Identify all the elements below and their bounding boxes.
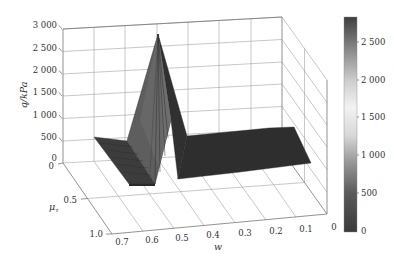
mu-tick: 0.5 bbox=[63, 195, 77, 205]
z-axis-label: q/kPa bbox=[18, 81, 29, 108]
z-tick: 500 bbox=[41, 132, 57, 142]
w-tick: 0.1 bbox=[299, 224, 313, 234]
z-tick: 1 000 bbox=[33, 110, 57, 120]
colorbar-tick: 500 bbox=[361, 188, 377, 198]
w-tick: 0.4 bbox=[206, 230, 220, 240]
colorbar: 2 500 2 000 1 500 1 000 500 0 bbox=[344, 17, 385, 236]
mu-tick: 1.0 bbox=[89, 229, 103, 239]
colorbar-gradient bbox=[344, 17, 357, 232]
surface-right-plateau bbox=[178, 127, 311, 179]
w-tick: 0.5 bbox=[175, 233, 189, 243]
mu-axis: 0 0.5 1.0 μτ bbox=[49, 161, 112, 239]
z-axis: 3 000 2 500 2 000 1 500 1 000 500 0 q/kP… bbox=[18, 20, 62, 163]
z-tick: 2 500 bbox=[33, 43, 57, 53]
w-tick: 0.3 bbox=[238, 228, 252, 238]
z-tick: 2 000 bbox=[33, 65, 57, 75]
z-tick: 3 000 bbox=[33, 20, 57, 30]
w-tick: 0.7 bbox=[115, 237, 129, 247]
right-wall-grid bbox=[282, 17, 327, 214]
colorbar-tick: 2 500 bbox=[361, 37, 385, 47]
w-tick: 0.6 bbox=[145, 235, 159, 245]
mu-tick: 0 bbox=[49, 161, 54, 171]
colorbar-tick: 0 bbox=[361, 226, 366, 236]
w-tick: 0 bbox=[331, 222, 336, 232]
w-axis: 0.7 0.6 0.5 0.4 0.3 0.2 0.1 0 w bbox=[115, 222, 336, 252]
w-axis-label: w bbox=[214, 241, 222, 252]
w-tick: 0.2 bbox=[269, 226, 283, 236]
surface bbox=[94, 34, 311, 186]
z-tick: 1 500 bbox=[33, 87, 57, 97]
colorbar-tick: 1 000 bbox=[361, 150, 385, 160]
colorbar-tick: 1 500 bbox=[361, 112, 385, 122]
colorbar-tick: 2 000 bbox=[361, 75, 385, 85]
surface-plot: 3 000 2 500 2 000 1 500 1 000 500 0 q/kP… bbox=[0, 0, 394, 265]
mu-axis-label: μτ bbox=[49, 201, 59, 213]
